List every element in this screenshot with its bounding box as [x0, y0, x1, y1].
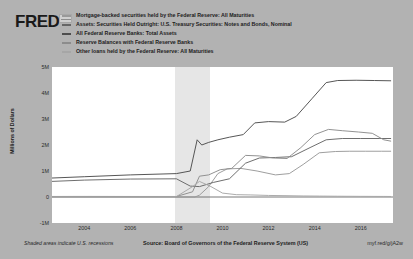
fred-chart-screenshot: FRED Mortgage-backed securities held by … — [0, 0, 413, 259]
x-axis-tick-label: 2012 — [254, 225, 284, 231]
series-line — [52, 139, 391, 187]
chart-footer: Shaded areas indicate U.S. recessions So… — [0, 237, 413, 259]
legend-item[interactable]: Assets: Securities Held Outright: U.S. T… — [62, 20, 407, 29]
y-axis-ticks: 5M4M3M2M1M0-1M — [25, 67, 49, 223]
legend-item[interactable]: Mortgage-backed securities held by the F… — [62, 11, 407, 20]
y-axis-tick-label: 1M — [27, 168, 49, 174]
legend-color-swatch — [62, 24, 71, 26]
chart-legend: Mortgage-backed securities held by the F… — [62, 11, 407, 56]
chart-header: FRED Mortgage-backed securities held by … — [0, 0, 413, 62]
series-line — [52, 151, 391, 197]
legend-item-label: Other loans held by the Federal Reserve:… — [76, 47, 214, 56]
x-axis-tick-label: 2008 — [161, 225, 191, 231]
legend-color-swatch — [62, 15, 71, 17]
y-axis-tick-label: 2M — [27, 142, 49, 148]
legend-color-swatch — [62, 51, 71, 53]
y-axis-tick-label: 0 — [27, 194, 49, 200]
series-line — [52, 181, 391, 196]
source-label: Source: Board of Governors of the Federa… — [143, 240, 308, 246]
series-line — [52, 80, 391, 178]
x-axis-tick-label: 2016 — [346, 225, 376, 231]
x-axis-tick-label: 2014 — [300, 225, 330, 231]
short-url-label[interactable]: myf.red/g/jA2w — [367, 240, 403, 246]
legend-item-label: Reserve Balances with Federal Reserve Ba… — [76, 38, 193, 47]
recession-note: Shaded areas indicate U.S. recessions — [24, 240, 113, 246]
y-axis-tick-label: 3M — [27, 116, 49, 122]
y-axis-tick-label: 5M — [27, 64, 49, 70]
legend-item[interactable]: Reserve Balances with Federal Reserve Ba… — [62, 38, 407, 47]
x-axis-ticks: 2004200620082010201220142016 — [52, 225, 393, 235]
y-axis-title: Millions of Dollars — [9, 83, 15, 179]
y-axis-tick-label: -1M — [27, 220, 49, 226]
x-axis-tick-label: 2006 — [115, 225, 145, 231]
series-lines — [52, 67, 393, 223]
x-axis-tick-label: 2004 — [69, 225, 99, 231]
legend-item[interactable]: Other loans held by the Federal Reserve:… — [62, 47, 407, 56]
plot-area — [52, 67, 393, 223]
y-axis-tick-label: 4M — [27, 90, 49, 96]
legend-item[interactable]: All Federal Reserve Banks: Total Assets — [62, 29, 407, 38]
x-axis-tick-label: 2010 — [208, 225, 238, 231]
legend-item-label: Mortgage-backed securities held by the F… — [76, 11, 254, 20]
legend-color-swatch — [62, 42, 71, 44]
legend-item-label: Assets: Securities Held Outright: U.S. T… — [76, 20, 292, 29]
chart-frame: Millions of Dollars 5M4M3M2M1M0-1M 20042… — [0, 62, 413, 237]
legend-color-swatch — [62, 33, 71, 35]
legend-item-label: All Federal Reserve Banks: Total Assets — [76, 29, 177, 38]
fred-logo: FRED — [15, 12, 59, 32]
